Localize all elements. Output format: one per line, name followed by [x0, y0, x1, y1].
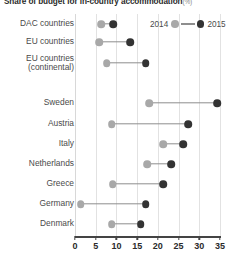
gridline-35 [220, 14, 221, 236]
gridline-25 [179, 14, 180, 236]
gridline-20 [158, 14, 159, 236]
chart-title-unit: (%) [182, 0, 192, 5]
chart-title-text: Share of budget for in-country accommoda… [4, 0, 182, 6]
row-connector [112, 123, 188, 124]
x-tick-label: 20 [153, 241, 163, 251]
data-point-2015 [109, 20, 117, 28]
data-point-2014 [77, 200, 85, 208]
legend-marker-2014-icon [171, 20, 179, 28]
x-tick-label: 15 [132, 241, 142, 251]
x-tick-35 [219, 236, 220, 240]
data-point-2015 [213, 99, 221, 107]
row-label: Netherlands [0, 159, 74, 169]
data-point-2014 [108, 220, 116, 228]
row-label: EU countries [0, 37, 74, 47]
chart-title: Share of budget for in-country accommoda… [4, 0, 235, 6]
x-tick-label: 5 [93, 241, 98, 251]
x-tick-label: 0 [72, 241, 77, 251]
data-point-2015 [142, 59, 150, 67]
row-label: Denmark [0, 219, 74, 229]
x-tick-0 [74, 236, 75, 240]
row-connector [81, 203, 146, 204]
x-tick-label: 30 [194, 241, 204, 251]
data-point-2015 [126, 38, 134, 46]
x-tick-30 [199, 236, 200, 240]
row-label: Germany [0, 199, 74, 209]
row-connector [149, 102, 217, 103]
row-connector [107, 62, 146, 63]
data-point-2015 [167, 160, 175, 168]
x-tick-label: 35 [215, 241, 225, 251]
x-tick-label: 10 [111, 241, 121, 251]
data-point-2014 [103, 59, 111, 67]
chart-container: Share of budget for in-country accommoda… [0, 0, 235, 259]
legend-connector [181, 23, 195, 24]
x-tick-label: 25 [174, 241, 184, 251]
row-connector [113, 183, 164, 184]
gridline-0 [75, 14, 76, 236]
legend-label-2014: 2014 [150, 20, 168, 29]
plot-area: DAC countriesEU countriesEU countries (c… [75, 14, 220, 236]
data-point-2014 [145, 99, 153, 107]
data-point-2015 [137, 220, 145, 228]
gridline-30 [199, 14, 200, 236]
x-tick-15 [136, 236, 137, 240]
data-point-2014 [108, 120, 116, 128]
x-tick-10 [116, 236, 117, 240]
legend-label-2015: 2015 [207, 20, 225, 29]
data-point-2015 [159, 180, 167, 188]
data-point-2015 [179, 140, 187, 148]
data-point-2014 [97, 20, 105, 28]
x-tick-20 [157, 236, 158, 240]
row-label: Greece [0, 179, 74, 189]
data-point-2014 [159, 140, 167, 148]
row-label: EU countries (continental) [0, 54, 74, 73]
data-point-2015 [184, 120, 192, 128]
data-point-2015 [142, 200, 150, 208]
x-tick-5 [95, 236, 96, 240]
x-tick-25 [178, 236, 179, 240]
row-label: Italy [0, 139, 74, 149]
row-label: Sweden [0, 98, 74, 108]
row-label: Austria [0, 119, 74, 129]
row-label: DAC countries [0, 19, 74, 29]
data-point-2014 [143, 160, 151, 168]
data-point-2014 [95, 38, 103, 46]
data-point-2014 [109, 180, 117, 188]
